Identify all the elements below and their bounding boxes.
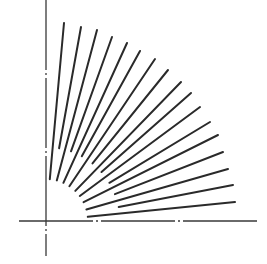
fan-line [63,43,127,183]
radiating-lines [50,23,235,217]
fan-line [88,202,235,217]
fan-line [50,23,64,179]
fan-diagram [0,0,267,264]
diagram-svg [0,0,267,264]
